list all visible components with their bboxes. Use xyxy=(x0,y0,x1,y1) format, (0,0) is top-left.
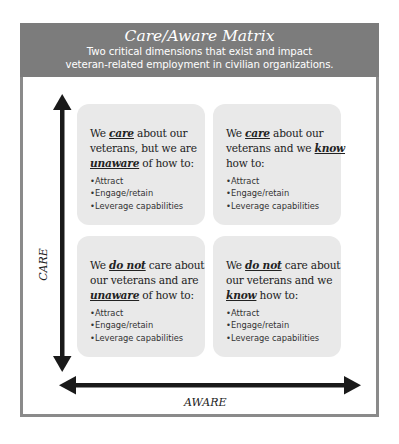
y-axis-label: CARE xyxy=(37,248,50,281)
vertical-double-arrow-icon xyxy=(53,94,72,372)
axis-arrows xyxy=(0,0,399,444)
horizontal-double-arrow-icon xyxy=(59,376,361,395)
x-axis-label: AWARE xyxy=(184,396,227,409)
